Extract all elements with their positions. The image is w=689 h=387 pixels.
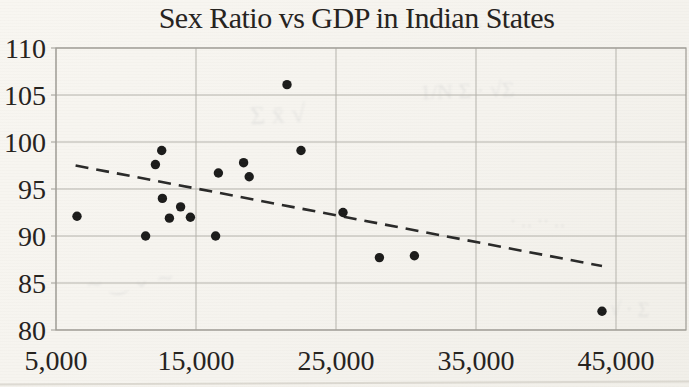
y-tick-label: 90 (18, 221, 46, 252)
data-point (157, 146, 166, 155)
data-point (72, 212, 81, 221)
y-tick-label: 105 (4, 80, 46, 111)
data-point (141, 231, 150, 240)
data-point (211, 231, 220, 240)
data-point (375, 253, 384, 262)
x-tick-label: 15,000 (158, 345, 235, 376)
data-point (158, 194, 167, 203)
y-tick-label: 95 (18, 174, 46, 205)
x-tick-label: 45,000 (578, 345, 655, 376)
trend-line (76, 166, 602, 267)
data-point (338, 208, 347, 217)
data-point (165, 213, 174, 222)
data-point (151, 160, 160, 169)
x-tick-label: 5,000 (25, 345, 88, 376)
y-tick-label: 110 (5, 33, 46, 64)
data-point (597, 307, 606, 316)
data-point (296, 146, 305, 155)
data-point (282, 80, 291, 89)
data-point (214, 168, 223, 177)
y-tick-label: 85 (18, 268, 46, 299)
y-tick-label: 100 (4, 127, 46, 158)
x-tick-label: 25,000 (298, 345, 375, 376)
data-point (410, 251, 419, 260)
y-tick-label: 80 (18, 315, 46, 346)
data-point (186, 213, 195, 222)
data-point (176, 202, 185, 211)
data-point (245, 172, 254, 181)
scanned-book-page: – ‥ — ·‥ – ‥ —Σ x̄ √1/N Σ · √Σ∼ ‿ ⌄ ∼· ‥… (0, 0, 689, 387)
data-point (239, 158, 248, 167)
scatter-plot: 808590951001051105,00015,00025,00035,000… (0, 0, 689, 387)
x-tick-label: 35,000 (438, 345, 515, 376)
